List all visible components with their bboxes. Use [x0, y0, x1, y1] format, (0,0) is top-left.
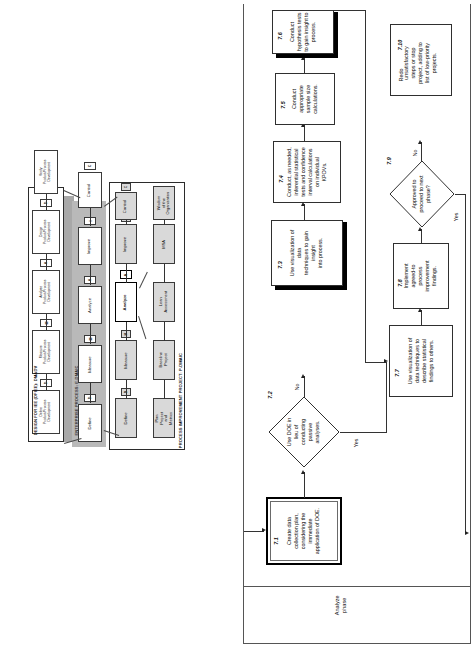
- edge-79-yes-arrowhead: [465, 531, 469, 535]
- edmaic-step-analyze-label: Analyze: [88, 298, 93, 313]
- pdmaic-step-improve: Improve: [115, 224, 137, 264]
- pdmaic-step-control: Control: [115, 192, 137, 220]
- pdmaic-sub-connector-3: [164, 264, 165, 283]
- dfiee-connector-3: [46, 254, 47, 270]
- edge-label-72-yes: Yes: [353, 439, 359, 447]
- entry-arrowhead: [262, 528, 266, 532]
- edge-72-yes-h: [340, 432, 387, 433]
- edge-75-76: [304, 58, 305, 73]
- pdmaic-substep-wisdom: Wisdom of the Organization: [153, 186, 175, 220]
- dfiee-step-measure-label: Measure Product/Process Development: [40, 340, 52, 364]
- edge-79-no-arrowhead: [418, 140, 422, 144]
- edmaic-step-control-label: Control: [88, 183, 93, 197]
- node-7-6-shadow-side: [334, 12, 338, 58]
- edge-72-no-arrowhead: [301, 374, 305, 378]
- edmaic-step-define: Define: [78, 404, 102, 442]
- edge-79-no: [421, 142, 422, 161]
- node-7-8[interactable]: Implement agreed-to process improvement …: [393, 243, 449, 309]
- node-7-8-number: 7.8: [397, 279, 403, 287]
- pdmaic-step-improve-label: Improve: [124, 236, 129, 251]
- edge-76-77-h: [304, 10, 366, 11]
- dfiee-step-verify-label: Verify Product/Process Development: [40, 160, 52, 184]
- edge-73-74: [304, 204, 305, 220]
- dfiee-step-design-label: Design Product/Process Development: [40, 220, 52, 244]
- edmaic-connector-4: [90, 208, 91, 226]
- entry-line: [244, 531, 264, 532]
- edge-label-79-no: No: [412, 150, 418, 157]
- node-7-2-number: 7.2: [267, 391, 273, 399]
- pdmaic-step-define-label: Define: [124, 412, 129, 424]
- pdmaic-sub-connector-2: [164, 322, 165, 341]
- pdmaic-step-analyze: Analyze: [115, 282, 137, 322]
- edge-71-72: [304, 472, 305, 498]
- pdmaic-step-define: Define: [115, 398, 137, 438]
- node-7-4-text: Conduct, as needed, inferential statisti…: [286, 144, 328, 200]
- pdmaic-connector-2: [126, 322, 127, 341]
- dfiee-step-verify: Verify Product/Process Development: [34, 150, 58, 194]
- edmaic-step-analyze: Analyze: [78, 286, 102, 324]
- node-7-3-number: 7.3: [277, 261, 283, 269]
- pdmaic-tag-c: C: [121, 183, 131, 191]
- pdmaic-step-control-label: Control: [124, 199, 129, 213]
- node-7-10[interactable]: unsatisfactory steps or stop project, ad…: [390, 24, 452, 96]
- node-7-7-number: 7.7: [394, 369, 400, 377]
- node-7-5-number: 7.5: [280, 101, 286, 109]
- frame-right: [470, 4, 471, 644]
- edmaic-step-measure-label: Measure: [88, 356, 93, 372]
- node-7-2-text: Use DOE in lieu of conducting passive an…: [286, 406, 321, 458]
- dfiee-connector-2: [46, 314, 47, 330]
- node-7-10-number: 7.10: [397, 40, 403, 51]
- node-7-9[interactable]: Approved to proceed to next phase?: [389, 160, 455, 228]
- edmaic-connector-2: [90, 324, 91, 344]
- edmaic-step-control: Control: [78, 172, 102, 208]
- dfiee-step-define-label: Define Product/Process Development: [40, 400, 52, 424]
- pdmaic-step-measure: Measure: [115, 340, 137, 380]
- node-7-6-text: Conduct hypothesis tests to gain insight…: [289, 12, 317, 52]
- node-7-2[interactable]: Use DOE in lieu of conducting passive an…: [268, 396, 340, 468]
- pdmaic-substep-wisdom-label: Wisdom of the Organization: [157, 192, 171, 215]
- edge-76-77-v: [365, 10, 366, 362]
- node-7-5[interactable]: Conduct appropriate sample size calculat…: [275, 73, 335, 125]
- pdmaic-substep-plan-project: Plan Project and Metrics: [153, 398, 175, 438]
- node-7-4[interactable]: Conduct, as needed, inferential statisti…: [273, 141, 341, 203]
- pdmaic-substep-lean-label: Lean Assessment: [159, 291, 168, 313]
- node-7-9-text: Approved to proceed to next phase?: [411, 169, 432, 219]
- node-7-7[interactable]: Use visualization of data techniques to …: [389, 325, 453, 397]
- pdmaic-connector-4: [126, 220, 127, 225]
- node-7-10-text: unsatisfactory steps or stop project, ad…: [403, 37, 438, 89]
- pdmaic-connector-3: [126, 264, 127, 283]
- edge-76-77-arrowhead: [384, 359, 388, 363]
- dfiee-step-analyze: Analyze Product/Process Development: [32, 270, 60, 314]
- node-7-1[interactable]: Create data collection plan, considering…: [266, 497, 342, 565]
- edmaic-step-define-label: Define: [88, 417, 93, 429]
- node-7-6-number: 7.6: [277, 32, 283, 40]
- dfiee-step-analyze-label: Analyze Product/Process Development: [40, 280, 52, 304]
- node-7-6-shadow: [276, 54, 338, 58]
- pdmaic-substep-msa: MSA: [153, 224, 175, 264]
- pdmaic-substep-baseline: Baseline Project: [153, 340, 175, 380]
- node-7-8-text: Implement agreed-to process improvement …: [403, 249, 438, 303]
- edge-72-yes-v: [386, 362, 387, 433]
- pdmaic-step-measure-label: Measure: [124, 352, 129, 368]
- node-7-7-text: Use visualization of data techniques to …: [407, 333, 435, 389]
- pdmaic-step-analyze-label: Analyze: [124, 294, 129, 310]
- node-7-3-shadow: [275, 286, 347, 290]
- node-7-3[interactable]: Use visualization of data techniques to …: [271, 220, 343, 286]
- node-7-5-text: Conduct appropriate sample size calculat…: [291, 76, 319, 122]
- dfiee-step-design: Design Product/Process Development: [32, 210, 60, 254]
- edge-label-79-yes: Yes: [453, 213, 459, 221]
- edge-74-75: [304, 125, 305, 141]
- pdmaic-sub-connector-1: [164, 380, 165, 399]
- edmaic-connector-1: [90, 383, 91, 403]
- edmaic-step-improve: Improve: [78, 227, 102, 265]
- frame-left: [243, 4, 244, 644]
- node-7-1-number: 7.1: [273, 537, 279, 545]
- edmaic-connector-3: [90, 265, 91, 285]
- node-7-3-shadow-side: [343, 222, 347, 290]
- edge-78-79: [421, 229, 422, 243]
- edge-72-no: [304, 376, 305, 397]
- swimlane-label: Analyze phase: [334, 582, 349, 628]
- pdmaic-substep-plan-project-label: Plan Project and Metrics: [155, 408, 174, 428]
- edmaic-step-measure: Measure: [78, 345, 102, 383]
- edge-71-72-arrowhead: [301, 470, 305, 474]
